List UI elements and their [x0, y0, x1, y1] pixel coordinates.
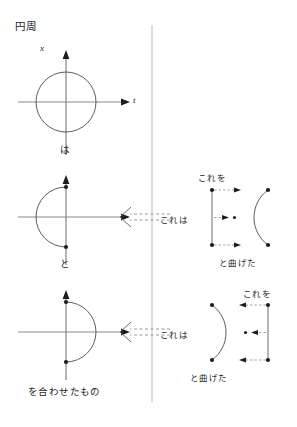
circle-figure: [0, 40, 160, 170]
lower-transform-arrow-label: これは: [160, 331, 188, 340]
arc-endpoint-bottom: [266, 243, 270, 247]
segment-endpoint-bottom: [210, 243, 214, 247]
circle-figure-caption: は: [60, 146, 70, 156]
vertical-axis-arrowhead: [63, 290, 70, 299]
segment-endpoint-top: [266, 303, 270, 307]
segment-endpoint-top: [210, 188, 214, 192]
bent-arc: [212, 305, 226, 360]
arc-endpoint-bottom: [64, 245, 68, 249]
bend-figure-upper-label-top: これを: [198, 174, 226, 183]
map-arrow-bottom-head: [239, 358, 246, 363]
arrow-head-left: [120, 207, 131, 227]
vertical-axis-arrowhead: [63, 50, 70, 59]
axis-label-t: t: [133, 96, 136, 105]
arc-endpoint-top: [64, 185, 68, 189]
map-arrow-top-head: [239, 303, 246, 308]
map-arrow-mid-head: [251, 330, 258, 335]
bent-arc: [254, 190, 268, 245]
bend-figure-lower-label-bottom: と曲げた: [190, 374, 227, 383]
upper-transform-arrow-label: これは: [160, 216, 188, 225]
arc-endpoint-bottom: [64, 360, 68, 364]
arc-endpoint-bottom: [210, 358, 214, 362]
arc-midpoint: [233, 216, 236, 219]
bend-figure-lower-label-top: これを: [243, 290, 271, 299]
map-arrow-top-head: [234, 188, 241, 193]
left-semicircle-caption: と: [60, 260, 70, 270]
horizontal-axis-arrowhead: [121, 99, 130, 106]
arc-midpoint: [244, 331, 247, 334]
map-arrow-bottom-head: [234, 243, 241, 248]
axis-label-x: x: [40, 44, 44, 53]
arc-endpoint-top: [210, 303, 214, 307]
diagram-page: 円周 x t は と: [0, 0, 297, 427]
map-arrow-mid-head: [222, 215, 229, 220]
segment-endpoint-bottom: [266, 358, 270, 362]
vertical-axis-arrowhead: [63, 175, 70, 184]
arrow-head-left: [120, 322, 131, 342]
right-semicircle-caption: を合わせたもの: [28, 388, 101, 398]
bend-figure-upper-label-bottom: と曲げた: [219, 259, 256, 268]
arc-endpoint-top: [64, 300, 68, 304]
arc-endpoint-top: [266, 188, 270, 192]
